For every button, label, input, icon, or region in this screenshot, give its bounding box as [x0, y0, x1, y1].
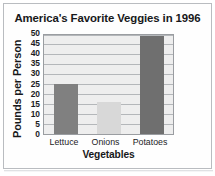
chart-figure: America's Favorite Veggies in 1996 Pound…	[0, 0, 215, 176]
y-tick-label: 5	[24, 120, 40, 128]
x-tick-label: Onions	[92, 137, 120, 147]
bar	[54, 84, 78, 134]
x-tick-label: Potatoes	[133, 137, 168, 147]
y-tick-label: 20	[24, 90, 40, 98]
y-tick-label: 25	[24, 80, 40, 88]
chart-title: America's Favorite Veggies in 1996	[0, 12, 215, 24]
x-axis-tick-labels: LettuceOnionsPotatoes	[43, 137, 174, 147]
y-tick-label: 35	[24, 59, 40, 67]
y-axis-tick-labels: 50454035302520151050	[24, 31, 40, 136]
y-tick-label: 50	[24, 29, 40, 37]
x-tick-label: Lettuce	[50, 137, 79, 147]
y-axis-title: Pounds per Person	[11, 42, 23, 138]
bar-group	[44, 35, 173, 134]
plot-area	[43, 34, 174, 135]
y-tick-label: 30	[24, 69, 40, 77]
x-axis-title: Vegetables	[43, 149, 174, 160]
y-tick-label: 40	[24, 49, 40, 57]
bar	[97, 102, 121, 134]
bar	[140, 36, 164, 133]
y-tick-label: 45	[24, 39, 40, 47]
y-tick-label: 15	[24, 100, 40, 108]
chart-frame-shadow	[4, 170, 213, 172]
y-tick-label: 10	[24, 110, 40, 118]
y-tick-label: 0	[24, 130, 40, 138]
